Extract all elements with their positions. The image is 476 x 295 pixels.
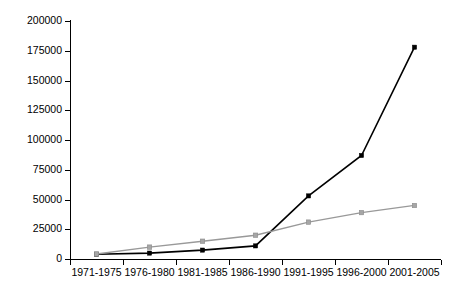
x-axis-tick-label: 1996-2000 (335, 266, 388, 278)
line-chart: 0250005000075000100000125000150000175000… (0, 0, 476, 295)
x-axis-tick-label: 1991-1995 (282, 266, 335, 278)
y-axis-tick (65, 51, 70, 52)
x-axis-tick-label: 2001-2005 (388, 266, 441, 278)
y-axis-tick (65, 21, 70, 22)
x-axis-tick (70, 260, 71, 265)
y-axis-tick (65, 170, 70, 171)
y-axis-tick-label: 75000 (0, 164, 62, 174)
y-axis-tick-label: 150000 (0, 75, 62, 85)
plot-area (70, 21, 440, 259)
x-axis-tick (282, 260, 283, 265)
y-axis-tick-label: 25000 (0, 223, 62, 233)
x-axis-tick (229, 260, 230, 265)
x-axis-tick (388, 260, 389, 265)
x-axis-tick-label: 1981-1985 (176, 266, 229, 278)
y-axis-tick-label: 50000 (0, 194, 62, 204)
y-axis-tick (65, 81, 70, 82)
x-axis-tick (176, 260, 177, 265)
y-axis-tick (65, 200, 70, 201)
x-axis-tick (123, 260, 124, 265)
y-axis-tick-label: 200000 (0, 15, 62, 25)
y-axis-tick-label: 0 (0, 253, 62, 263)
y-axis-tick (65, 140, 70, 141)
x-axis-tick-label: 1976-1980 (123, 266, 176, 278)
y-axis-line (70, 20, 71, 260)
x-axis-tick-label: 1986-1990 (229, 266, 282, 278)
x-axis-line (70, 259, 441, 260)
y-axis-tick (65, 110, 70, 111)
y-axis-tick-label: 175000 (0, 45, 62, 55)
x-axis-tick (441, 260, 442, 265)
y-axis-tick-label: 125000 (0, 104, 62, 114)
x-axis-tick-label: 1971-1975 (70, 266, 123, 278)
x-axis-tick (335, 260, 336, 265)
y-axis-tick (65, 229, 70, 230)
y-axis-tick-label: 100000 (0, 134, 62, 144)
